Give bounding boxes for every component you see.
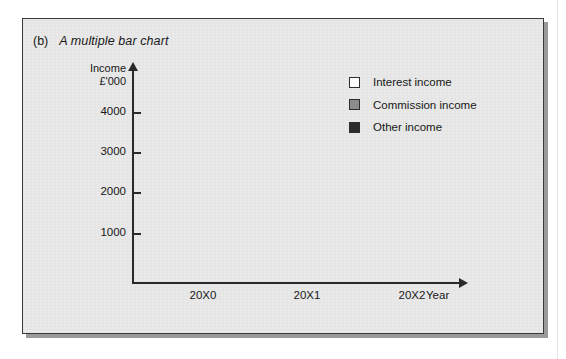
- legend-item-label: Interest income: [373, 76, 452, 88]
- figure-page: (b)A multiple bar chart Income £'000 400…: [0, 0, 566, 359]
- bars-layer: [0, 0, 566, 359]
- legend-item-label: Other income: [373, 121, 442, 133]
- legend-swatch-icon: [349, 122, 360, 133]
- chart-legend: Interest income Commission income Other …: [349, 71, 477, 139]
- legend-swatch-icon: [349, 99, 360, 110]
- legend-swatch-icon: [349, 77, 360, 88]
- legend-item-other-income: Other income: [349, 116, 477, 139]
- legend-item-interest-income: Interest income: [349, 71, 477, 94]
- legend-item-label: Commission income: [373, 99, 477, 111]
- legend-item-commission-income: Commission income: [349, 94, 477, 117]
